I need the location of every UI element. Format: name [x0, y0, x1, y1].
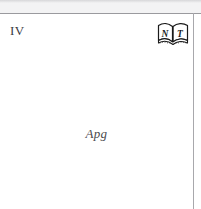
horizontal-rule — [0, 13, 201, 14]
scanned-page: IV N T Apg — [0, 0, 201, 209]
open-book-nt-icon: N T — [156, 20, 190, 47]
section-numeral: IV — [10, 23, 25, 38]
vertical-rule — [193, 13, 194, 209]
open-book-nt-icon-graphic: N T — [156, 20, 190, 47]
top-margin-strip — [0, 0, 201, 13]
book-left-page-letter: N — [161, 29, 170, 39]
running-title: Apg — [0, 126, 193, 142]
